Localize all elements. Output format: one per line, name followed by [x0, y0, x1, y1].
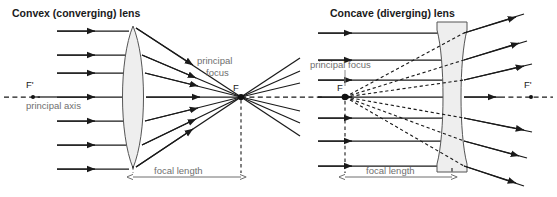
concave-focal-length-label: focal length [366, 165, 415, 176]
convex-diverging-after-focus [241, 58, 300, 136]
convex-panel-title: Convex (converging) lens [12, 7, 141, 19]
convex-focus-dot [238, 94, 244, 100]
convex-focal-length-label: focal length [154, 165, 203, 176]
lens-diagram-figure: F' [0, 0, 557, 197]
lens-diagram-canvas: F' [0, 0, 557, 197]
concave-far-focus-dot [529, 95, 533, 99]
convex-far-focus-marker: F' [26, 79, 34, 90]
convex-lens-body [123, 26, 144, 168]
convex-principal-axis-label: principal axis [26, 100, 81, 111]
concave-far-focus-marker: F' [524, 79, 532, 90]
concave-focus-dot [342, 94, 349, 101]
convex-panel: F' [4, 7, 300, 177]
concave-panel-title: Concave (diverging) lens [330, 7, 455, 19]
convex-principal-focus-label-line1: principal [197, 55, 232, 66]
concave-refracted-rays [464, 14, 532, 186]
concave-focus-marker: F [337, 82, 343, 93]
convex-refracted-rays [136, 28, 241, 167]
convex-principal-focus-label-line2: focus [206, 67, 229, 78]
concave-principal-focus-label: principal focus [310, 59, 371, 70]
concave-panel: F' Concave (diverging) lens principa [300, 7, 553, 186]
convex-focus-marker: F [233, 82, 239, 93]
